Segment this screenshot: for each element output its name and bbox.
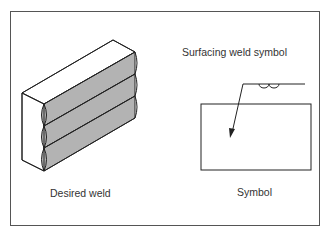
surfacing-weld-symbol-title: Surfacing weld symbol bbox=[182, 46, 287, 58]
weld-diagram bbox=[0, 0, 331, 244]
part-outline-rectangle bbox=[201, 104, 311, 170]
arrowhead-icon bbox=[229, 128, 235, 138]
desired-weld-illustration bbox=[22, 40, 137, 171]
desired-weld-caption: Desired weld bbox=[50, 187, 111, 199]
block-end-face bbox=[22, 93, 44, 171]
symbol-caption: Symbol bbox=[237, 186, 272, 198]
arrow-leader bbox=[232, 84, 243, 133]
surfacing-beads-glyph bbox=[259, 84, 279, 88]
surfacing-weld-symbol bbox=[201, 84, 311, 170]
